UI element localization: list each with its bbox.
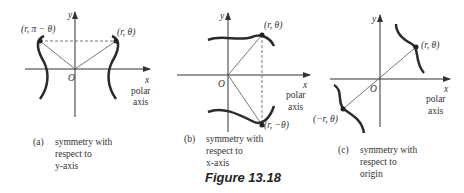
point-neg-r-theta: [341, 107, 346, 112]
point-label: (−r, θ): [313, 114, 338, 124]
point-label: (r, π − θ): [21, 24, 55, 34]
x-axis-label: x: [303, 80, 307, 90]
axis-label: axis: [133, 97, 148, 107]
polar-label: polar: [286, 90, 306, 100]
axis-label: axis: [288, 102, 303, 112]
x-axis-label: x: [444, 84, 448, 94]
caption-line: symmetry with: [360, 144, 417, 156]
curve-lower: [334, 85, 364, 133]
curve-upper: [396, 24, 424, 73]
point-r-theta: [260, 33, 265, 38]
polar-label: polar: [426, 94, 446, 104]
caption-line: x-axis: [206, 157, 263, 169]
panel-b-graphic: [177, 13, 310, 132]
caption-tag: (b): [184, 133, 195, 145]
origin-label: O: [370, 84, 377, 94]
radius-line: [228, 35, 262, 75]
axis-label: axis: [428, 106, 443, 116]
curve-top: [208, 36, 274, 46]
caption-tag: (c): [338, 144, 349, 156]
point-label: (r, θ): [117, 27, 135, 37]
point-r-theta: [414, 45, 419, 50]
y-axis-label: y: [220, 11, 224, 21]
caption-line: respect to: [360, 156, 417, 168]
origin-label: O: [218, 79, 225, 89]
caption-line: respect to: [206, 145, 263, 157]
point-r-theta: [114, 39, 119, 44]
caption-line: y-axis: [55, 160, 112, 172]
x-axis-label: x: [145, 75, 149, 85]
point-label: (r, −θ): [264, 120, 289, 130]
caption-tag: (a): [33, 136, 44, 148]
caption-line: origin: [360, 168, 417, 180]
point-label: (r, θ): [264, 20, 282, 30]
caption-line: symmetry with: [55, 136, 112, 148]
caption-line: symmetry with: [206, 133, 263, 145]
point-label: (r, θ): [421, 40, 439, 50]
y-axis-label: y: [372, 14, 376, 24]
polar-label: polar: [131, 86, 151, 96]
point-r-pi-minus-theta: [38, 39, 43, 44]
figure-caption: Figure 13.18: [205, 170, 281, 185]
y-axis-label: y: [68, 10, 72, 20]
origin-label: O: [68, 73, 75, 83]
caption-line: respect to: [55, 148, 112, 160]
